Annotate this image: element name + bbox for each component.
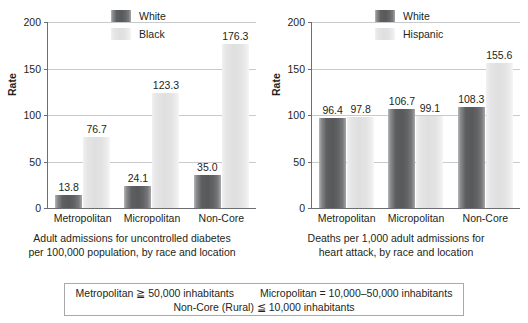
bar-group-metropolitan: 96.497.8Metropolitan: [312, 22, 381, 208]
x-axis-label-non-core: Non-Core: [463, 212, 509, 224]
bar-group-non-core: 35.0176.3Non-Core: [187, 22, 256, 208]
legend-swatch-white-icon: [375, 10, 395, 22]
legend-left: White Black: [111, 8, 166, 44]
y-axis-tick-label: 100: [287, 109, 305, 121]
bar-black-non-core[interactable]: 176.3: [222, 44, 249, 208]
y-axis-tick-label: 50: [29, 156, 41, 168]
definition-noncore: Non-Core (Rural) ≦ 10,000 inhabitants: [173, 300, 354, 314]
legend-item-white-right: White: [375, 8, 443, 24]
bar-value-label: 13.8: [58, 181, 78, 193]
caption-right-line-2: heart attack, by race and location: [264, 245, 528, 259]
caption-right: Deaths per 1,000 adult admissions for he…: [264, 231, 528, 259]
legend-label-white: White: [403, 10, 430, 22]
bar-hispanic-metropolitan[interactable]: 97.8: [347, 117, 374, 208]
caption-left-line-2: per 100,000 population, by race and loca…: [0, 245, 264, 259]
legend-label-black: Black: [139, 28, 165, 40]
plot-area-left: 05010015020013.876.7Metropolitan24.1123.…: [47, 22, 256, 209]
caption-left: Adult admissions for uncontrolled diabet…: [0, 231, 264, 259]
legend-label-white: White: [139, 10, 166, 22]
bar-hispanic-non-core[interactable]: 155.6: [486, 63, 513, 208]
legend-label-hispanic: Hispanic: [403, 28, 443, 40]
y-axis-tick-label: 200: [287, 16, 305, 28]
definitions-box: Metropolitan ≧ 50,000 inhabitants Microp…: [64, 283, 464, 316]
definition-metropolitan: Metropolitan ≧ 50,000 inhabitants: [76, 286, 234, 300]
legend-item-white-left: White: [111, 8, 166, 24]
bar-group-non-core: 108.3155.6Non-Core: [451, 22, 520, 208]
bar-value-label: 24.1: [128, 172, 148, 184]
caption-left-line-1: Adult admissions for uncontrolled diabet…: [0, 231, 264, 245]
y-axis-tick-label: 0: [35, 202, 41, 214]
bar-hispanic-micropolitan[interactable]: 99.1: [416, 116, 443, 208]
bar-white-micropolitan[interactable]: 24.1: [124, 186, 151, 208]
bar-value-label: 123.3: [153, 79, 179, 91]
y-axis-tick-label: 150: [23, 63, 41, 75]
bar-group-metropolitan: 13.876.7Metropolitan: [48, 22, 117, 208]
x-axis-label-metropolitan: Metropolitan: [54, 212, 112, 224]
bar-value-label: 35.0: [197, 161, 217, 173]
bar-value-label: 108.3: [458, 93, 484, 105]
bar-value-label: 76.7: [86, 123, 106, 135]
x-axis-label-micropolitan: Micropolitan: [388, 212, 445, 224]
x-axis-label-non-core: Non-Core: [199, 212, 245, 224]
bar-black-metropolitan[interactable]: 76.7: [83, 137, 110, 208]
bar-white-metropolitan[interactable]: 96.4: [319, 118, 346, 208]
y-axis-tick-label: 100: [23, 109, 41, 121]
y-axis-title-left: Rate: [6, 73, 18, 96]
legend-swatch-black-icon: [111, 28, 131, 40]
bar-group-micropolitan: 24.1123.3Micropolitan: [117, 22, 186, 208]
bar-white-non-core[interactable]: 108.3: [458, 107, 485, 208]
bar-black-micropolitan[interactable]: 123.3: [152, 93, 179, 208]
figure: Rate 05010015020013.876.7Metropolitan24.…: [0, 0, 528, 323]
plot-area-right: 05010015020096.497.8Metropolitan106.799.…: [311, 22, 520, 209]
bar-white-non-core[interactable]: 35.0: [194, 175, 221, 208]
bar-value-label: 106.7: [389, 95, 415, 107]
caption-right-line-1: Deaths per 1,000 adult admissions for: [264, 231, 528, 245]
definitions-line-1: Metropolitan ≧ 50,000 inhabitants Microp…: [76, 286, 453, 300]
bar-white-metropolitan[interactable]: 13.8: [55, 195, 82, 208]
bar-value-label: 99.1: [420, 102, 440, 114]
legend-swatch-white-icon: [111, 10, 131, 22]
x-axis-label-metropolitan: Metropolitan: [318, 212, 376, 224]
y-axis-title-right: Rate: [270, 73, 282, 96]
y-axis-tick-label: 50: [293, 156, 305, 168]
legend-item-black-left: Black: [111, 26, 166, 42]
y-axis-tick: [44, 208, 48, 209]
bar-group-micropolitan: 106.799.1Micropolitan: [381, 22, 450, 208]
y-axis-tick-label: 200: [23, 16, 41, 28]
bar-value-label: 155.6: [486, 49, 512, 61]
y-axis-tick-label: 150: [287, 63, 305, 75]
chart-panel-diabetes-admissions: Rate 05010015020013.876.7Metropolitan24.…: [0, 0, 264, 278]
bar-value-label: 176.3: [222, 30, 248, 42]
bar-value-label: 96.4: [322, 104, 342, 116]
chart-panel-heart-attack-deaths: Rate 05010015020096.497.8Metropolitan106…: [264, 0, 528, 278]
y-axis-tick: [308, 208, 312, 209]
x-axis-label-micropolitan: Micropolitan: [124, 212, 181, 224]
legend-right: White Hispanic: [375, 8, 443, 44]
bar-white-micropolitan[interactable]: 106.7: [388, 109, 415, 208]
y-axis-tick-label: 0: [299, 202, 305, 214]
legend-swatch-hispanic-icon: [375, 28, 395, 40]
legend-item-hispanic-right: Hispanic: [375, 26, 443, 42]
bar-value-label: 97.8: [350, 103, 370, 115]
definition-micropolitan: Micropolitan = 10,000–50,000 inhabitants: [260, 286, 452, 300]
